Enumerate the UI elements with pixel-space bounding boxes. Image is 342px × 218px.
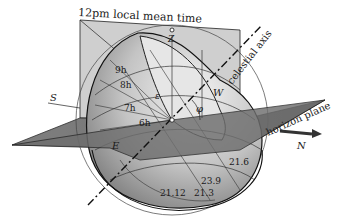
west-label: W <box>213 87 224 98</box>
phi-label: φ <box>196 103 203 114</box>
date-23-9-label: 23.9 <box>201 176 221 186</box>
celestial-sphere-diagram: 12pm local mean time celestial axis hori… <box>0 0 342 218</box>
east-label: E <box>111 140 120 151</box>
north-arrow <box>280 129 322 138</box>
epsilon-label: ε <box>155 91 160 101</box>
hour-9h-label: 9h <box>115 65 127 75</box>
date-21-12-label: 21.12 <box>160 188 186 198</box>
south-marker-line <box>48 103 80 108</box>
date-21-6-label: 21.6 <box>229 157 249 167</box>
zenith-label: Z <box>167 34 175 44</box>
hour-8h-label: 8h <box>120 80 132 90</box>
north-label: N <box>296 140 307 151</box>
south-label: S <box>50 92 57 103</box>
observer-point <box>170 118 174 122</box>
hour-6h-label: 6h <box>139 118 151 128</box>
zenith-point <box>170 28 174 32</box>
date-21-3-label: 21.3 <box>194 188 214 198</box>
hour-7h-label: 7h <box>124 103 136 113</box>
